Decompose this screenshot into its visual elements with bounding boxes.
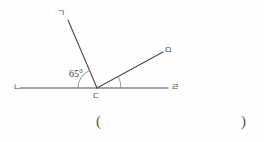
vertex-label-d: ㄷ: [92, 92, 100, 101]
vertex-label-g: ㄱ: [57, 9, 65, 18]
ray-d-m: [97, 52, 163, 88]
angle-measure-label: 65°: [69, 69, 83, 79]
geometry-figure: ㄱ ㄴ ㄷ ㅁ ㄹ 65° ( ): [0, 0, 264, 142]
vertex-label-n: ㄴ: [13, 83, 21, 92]
answer-open-paren: (: [96, 114, 101, 129]
arc-angle-m-d-r: [118, 76, 121, 88]
vertex-label-m: ㅁ: [164, 46, 172, 55]
vertex-label-r: ㄹ: [171, 83, 179, 92]
answer-close-paren: ): [241, 114, 246, 129]
geometry-canvas: [0, 0, 264, 142]
